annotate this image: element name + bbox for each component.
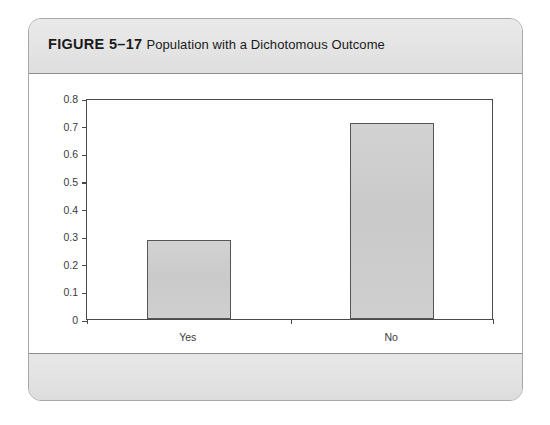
y-tick-mark <box>82 100 87 101</box>
y-tick-mark <box>82 210 87 211</box>
y-tick-label: 0.7 <box>63 121 78 134</box>
x-axis-label-yes: Yes <box>148 331 228 344</box>
bar-yes <box>147 240 231 319</box>
x-axis-tick <box>87 319 88 324</box>
figure-title: FIGURE 5–17Population with a Dichotomous… <box>48 36 385 52</box>
y-tick-mark <box>82 238 87 239</box>
figure-footer-band <box>29 353 522 400</box>
y-tick-label: 0.1 <box>63 286 78 299</box>
bar-chart: 00.10.20.30.40.50.60.70.8 YesNo <box>29 74 523 355</box>
x-axis-tick <box>291 319 292 324</box>
y-tick-mark <box>82 127 87 128</box>
y-tick-label: 0.8 <box>63 93 78 106</box>
y-tick-mark <box>82 182 87 183</box>
y-tick-label: 0.5 <box>63 176 78 189</box>
figure-card: FIGURE 5–17Population with a Dichotomous… <box>28 18 523 401</box>
plot-area: 00.10.20.30.40.50.60.70.8 <box>86 99 493 320</box>
bar-no <box>350 123 434 319</box>
y-tick-label: 0.6 <box>63 148 78 161</box>
y-tick-mark <box>82 265 87 266</box>
x-axis-tick <box>493 319 494 324</box>
figure-header-band: FIGURE 5–17Population with a Dichotomous… <box>29 19 522 74</box>
x-axis-label-no: No <box>351 331 431 344</box>
y-tick-label: 0 <box>72 314 78 327</box>
y-tick-label: 0.3 <box>63 231 78 244</box>
y-tick-label: 0.4 <box>63 204 78 217</box>
figure-body: 00.10.20.30.40.50.60.70.8 YesNo <box>29 74 522 353</box>
y-tick-mark <box>82 293 87 294</box>
y-tick-mark <box>82 155 87 156</box>
figure-number: FIGURE 5–17 <box>48 36 142 52</box>
figure-caption: Population with a Dichotomous Outcome <box>146 37 385 52</box>
y-tick-label: 0.2 <box>63 259 78 272</box>
